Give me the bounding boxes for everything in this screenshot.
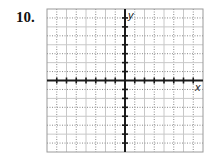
- x-axis-label: x: [194, 81, 201, 93]
- axes: [47, 9, 203, 152]
- coordinate-grid: y x: [0, 0, 213, 162]
- y-axis-label: y: [127, 9, 135, 21]
